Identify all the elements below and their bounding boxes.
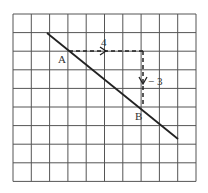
point-a-label: A xyxy=(58,53,66,65)
point-b-label: B xyxy=(135,110,142,122)
slope-diagram: A B 4 − 3 xyxy=(0,0,208,193)
run-label: 4 xyxy=(101,36,107,48)
rise-label: − 3 xyxy=(148,75,163,87)
